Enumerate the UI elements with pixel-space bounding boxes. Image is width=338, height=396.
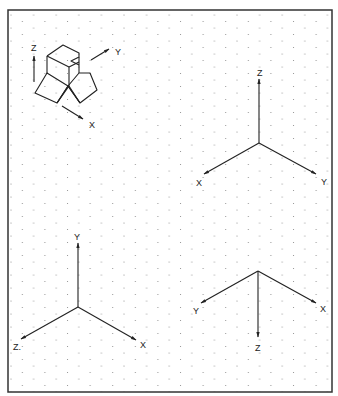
bl-z-label: Z. — [13, 342, 21, 352]
br-z-label: Z — [255, 343, 261, 353]
drawing-frame — [8, 10, 332, 392]
tr-x-label: X — [196, 178, 202, 188]
br-y-label: Y — [193, 306, 199, 316]
bl-x-label: X — [140, 340, 146, 350]
bl-y-label: Y — [74, 232, 80, 242]
obj-x-label: X — [89, 120, 95, 130]
tr-z-label: Z — [257, 68, 263, 78]
br-x-label: X — [320, 304, 326, 314]
obj-y-label: Y — [115, 47, 121, 57]
obj-z-label: Z — [31, 43, 37, 53]
isometric-diagram: Z Y X Z X Y Y Z. X Y X Z — [0, 0, 338, 396]
tr-y-label: Y — [321, 177, 327, 187]
